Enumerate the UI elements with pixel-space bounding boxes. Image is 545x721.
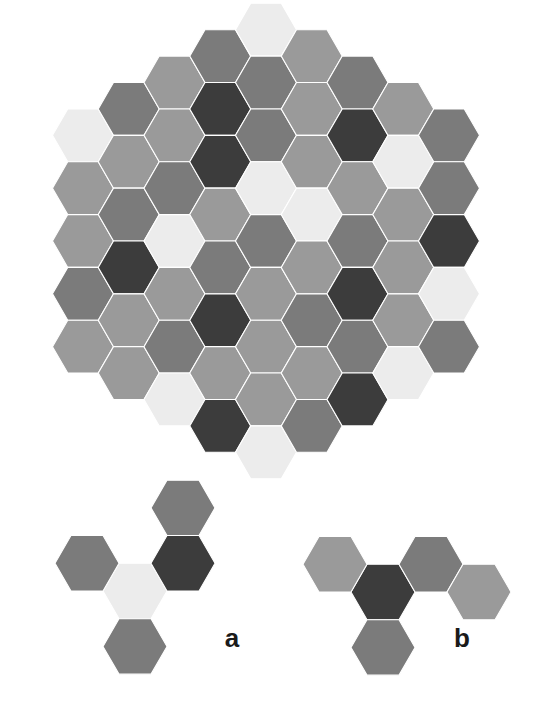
panel-a-label: a bbox=[225, 623, 240, 653]
hexagon-tiling-figure: a b bbox=[0, 0, 545, 721]
figure-root: a b bbox=[0, 0, 545, 721]
panel-b-label: b bbox=[454, 623, 470, 653]
